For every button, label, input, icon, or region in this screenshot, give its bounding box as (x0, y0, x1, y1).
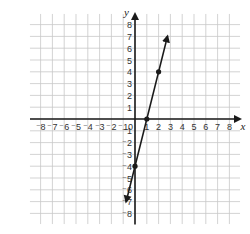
y-tick-label: ⁻2 (122, 138, 132, 148)
x-tick-label: 5 (191, 122, 196, 132)
y-tick-label: ⁻8 (122, 209, 132, 219)
y-tick-label: 1 (127, 103, 132, 113)
x-tick-label: ⁻7 (47, 122, 57, 132)
y-tick-label: 2 (127, 91, 132, 101)
y-tick-label: 8 (127, 20, 132, 30)
y-axis-label: y (123, 6, 129, 18)
y-tick-label: 7 (127, 32, 132, 42)
data-point (156, 69, 161, 74)
x-tick-label: ⁻5 (71, 122, 81, 132)
x-tick-label: 6 (203, 122, 208, 132)
x-tick-label: ⁻4 (83, 122, 93, 132)
axes (30, 14, 240, 225)
x-tick-label: ⁻8 (36, 122, 46, 132)
x-tick-label: 8 (227, 122, 232, 132)
y-tick-label: 4 (127, 67, 132, 77)
y-tick-label: 5 (127, 56, 132, 66)
origin-label: 0 (128, 122, 133, 132)
y-tick-label: ⁻3 (122, 150, 132, 160)
y-tick-label: 3 (127, 79, 132, 89)
data-point (144, 116, 149, 121)
y-tick-label: 6 (127, 44, 132, 54)
x-tick-label: ⁻3 (95, 122, 105, 132)
x-tick-label: 2 (156, 122, 161, 132)
x-tick-label: ⁻6 (59, 122, 69, 132)
x-tick-label: 7 (215, 122, 220, 132)
coordinate-plane: ⁻8⁻7⁻6⁻5⁻4⁻3⁻2⁻112345678⁻8⁻7⁻6⁻5⁻4⁻3⁻2⁻1… (0, 0, 250, 234)
y-tick-label: ⁻4 (122, 162, 132, 172)
x-tick-label: ⁻2 (106, 122, 116, 132)
x-tick-label: 4 (180, 122, 185, 132)
x-axis-label: x (240, 120, 246, 132)
x-tick-label: 3 (168, 122, 173, 132)
data-point (132, 164, 137, 169)
